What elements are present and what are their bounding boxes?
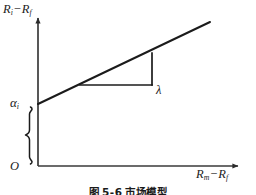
origin-label: O (10, 160, 19, 173)
figure-caption: 图5-6市场模型 (0, 184, 256, 195)
slope-label: λ (156, 84, 161, 97)
x-axis-label: Rm−Rf (196, 168, 228, 182)
intercept-subscript: i (17, 102, 19, 111)
figure-market-model: Ri−Rf Rm−Rf O αi λ 图5-6市场模型 (0, 0, 256, 195)
intercept-symbol: α (10, 95, 17, 110)
y-axis-label-operator: − (13, 2, 22, 16)
y-axis-label-sub2: f (30, 8, 32, 17)
x-axis-label-operator: − (209, 167, 218, 181)
caption-label: 图 (89, 186, 100, 195)
intercept-brace (26, 107, 33, 164)
characteristic-line (38, 22, 210, 104)
y-axis-label: Ri−Rf (3, 3, 32, 17)
x-axis-label-sub2: f (226, 173, 228, 182)
y-axis-label-var1: R (3, 2, 11, 16)
x-axis-label-var2: R (218, 167, 226, 181)
figure-canvas (0, 0, 256, 195)
y-axis-label-var2: R (22, 2, 30, 16)
x-axis-label-var1: R (196, 167, 204, 181)
caption-number: 5-6 (99, 186, 125, 195)
intercept-label: αi (10, 96, 19, 111)
caption-title: 市场模型 (125, 186, 167, 195)
